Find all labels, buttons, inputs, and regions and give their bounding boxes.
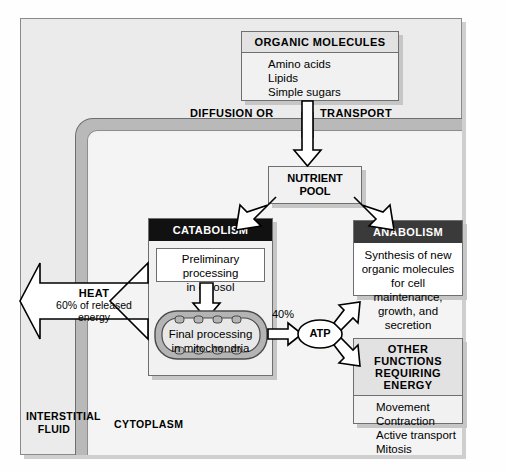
atp-label: ATP: [298, 327, 342, 339]
heat-label: HEAT: [42, 287, 146, 299]
crista-icon: [232, 316, 241, 323]
cytoplasm-label: CYTOPLASM: [114, 418, 183, 430]
atp-yield-percent: 40%: [272, 308, 294, 320]
diagram-canvas: ORGANIC MOLECULES Amino acids Lipids Sim…: [0, 0, 506, 472]
interstitial-fluid-label: INTERSTITIAL FLUID: [26, 410, 82, 436]
atp-to-other-functions-arrow: [334, 338, 360, 366]
atp-to-anabolism-arrow: [334, 302, 360, 330]
crista-icon: [175, 316, 184, 323]
arrow-layer: [0, 0, 506, 472]
mitochondria-line2: in mitochondria: [160, 341, 261, 355]
heat-detail-line2: energy: [42, 311, 146, 323]
crista-icon: [194, 316, 203, 323]
interstitial-fluid-line2: FLUID: [26, 423, 82, 436]
transport-arrow: [294, 101, 321, 166]
heat-detail-line1: 60% of released: [42, 299, 146, 311]
nutrient-to-catabolism-arrow: [236, 197, 276, 230]
crista-icon: [213, 316, 222, 323]
mitochondria-to-atp-arrow: [268, 323, 302, 345]
heat-text-group: HEAT 60% of released energy: [42, 287, 146, 323]
interstitial-fluid-line1: INTERSTITIAL: [26, 410, 82, 423]
nutrient-to-anabolism-arrow: [354, 197, 394, 230]
mitochondria-line1: Final processing: [160, 327, 261, 341]
mitochondria-label: Final processing in mitochondria: [160, 327, 261, 355]
